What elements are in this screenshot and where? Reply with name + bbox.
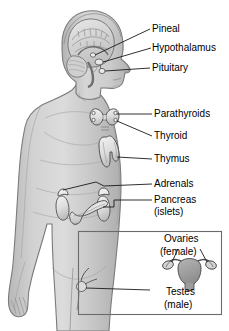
label-testes-sub: (male)	[164, 299, 192, 310]
label-testes: Testes	[166, 286, 195, 297]
label-adrenals: Adrenals	[154, 178, 193, 189]
label-pineal: Pineal	[152, 23, 180, 34]
hypothalamus-gland	[95, 59, 103, 65]
label-ovaries-sub: (female)	[160, 246, 197, 257]
endocrine-system-diagram: Pineal Hypothalamus Pituitary Parathyroi…	[0, 0, 229, 331]
label-pancreas-sub: (islets)	[154, 206, 183, 217]
label-pancreas: Pancreas	[154, 194, 196, 205]
label-thymus: Thymus	[154, 153, 190, 164]
pituitary-gland	[99, 68, 105, 73]
pineal-gland	[90, 53, 95, 57]
label-thyroid: Thyroid	[154, 130, 187, 141]
leader-thyroid	[117, 121, 152, 136]
label-hypothalamus: Hypothalamus	[152, 42, 216, 53]
label-pituitary: Pituitary	[152, 62, 188, 73]
label-parathyroids: Parathyroids	[154, 108, 210, 119]
label-ovaries: Ovaries	[164, 233, 198, 244]
leader-thymus	[117, 157, 152, 159]
